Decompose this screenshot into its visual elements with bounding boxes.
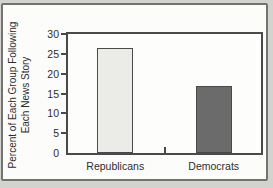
y-tick-label-20: 20 <box>31 68 59 80</box>
y-tick-mark-15 <box>61 93 67 95</box>
y-axis-title-line1: Percent of Each Group Following <box>6 22 19 169</box>
y-tick-mark-25 <box>61 53 67 55</box>
y-tick-mark-20 <box>61 73 67 75</box>
x-tick-mark-mid <box>164 147 166 153</box>
y-axis-title: Percent of Each Group Following Each New… <box>6 22 32 169</box>
figure-frame: Percent of Each Group Following Each New… <box>0 0 273 188</box>
y-tick-label-5: 5 <box>31 127 59 139</box>
y-tick-label-10: 10 <box>31 107 59 119</box>
y-tick-mark-10 <box>61 112 67 114</box>
bar-democrats <box>196 86 232 153</box>
chart-panel: Percent of Each Group Following Each New… <box>0 0 273 188</box>
y-tick-label-15: 15 <box>31 88 59 100</box>
y-tick-label-25: 25 <box>31 48 59 60</box>
bar-republicans <box>97 48 133 153</box>
y-tick-label-0: 0 <box>31 147 59 159</box>
y-tick-mark-30 <box>61 33 67 35</box>
y-tick-label-30: 30 <box>31 28 59 40</box>
y-tick-mark-5 <box>61 132 67 134</box>
x-label-democrats: Democrats <box>169 160 259 172</box>
plot-area <box>66 32 263 155</box>
x-label-republicans: Republicans <box>70 160 160 172</box>
